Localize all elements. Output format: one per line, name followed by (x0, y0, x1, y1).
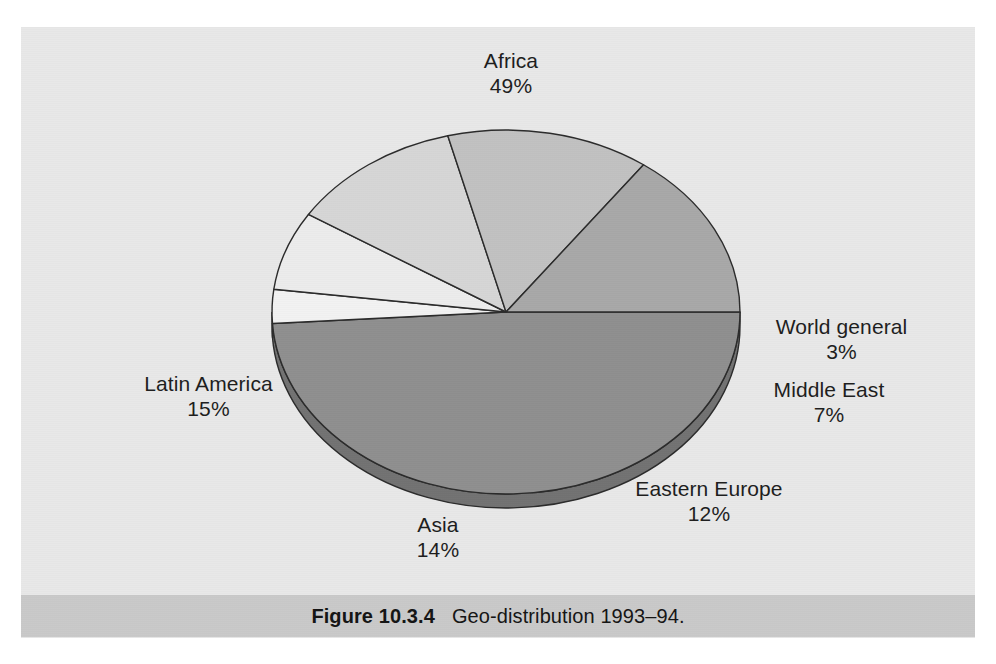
slice-label-world-general-name: World general (776, 315, 908, 338)
slice-label-latin-america-name: Latin America (144, 372, 273, 395)
slice-label-middle-east-pct: 7% (734, 403, 924, 428)
figure-caption-bar: Figure 10.3.4Geo-distribution 1993–94. (21, 595, 975, 637)
pie-chart-svg (21, 27, 975, 595)
slice-label-africa: Africa 49% (421, 49, 601, 99)
slice-label-world-general-pct: 3% (734, 340, 949, 365)
pie-slice-africa (272, 312, 740, 494)
slice-label-world-general: World general 3% (734, 315, 949, 365)
slice-label-eastern-europe-name: Eastern Europe (635, 477, 782, 500)
figure-caption-body: Geo-distribution 1993–94. (452, 605, 685, 627)
figure-root: Africa 49% World general 3% Middle East … (0, 0, 996, 664)
slice-label-latin-america: Latin America 15% (101, 372, 316, 422)
pie-chart: Africa 49% World general 3% Middle East … (21, 27, 975, 595)
slice-label-latin-america-pct: 15% (101, 397, 316, 422)
slice-label-africa-name: Africa (484, 49, 538, 72)
slice-label-middle-east: Middle East 7% (734, 378, 924, 428)
slice-label-asia-name: Asia (417, 513, 458, 536)
figure-panel: Africa 49% World general 3% Middle East … (21, 27, 975, 638)
slice-label-africa-pct: 49% (421, 74, 601, 99)
slice-label-asia-pct: 14% (368, 538, 508, 563)
figure-number: Figure 10.3.4 (311, 605, 435, 627)
slice-label-middle-east-name: Middle East (774, 378, 885, 401)
figure-caption: Figure 10.3.4Geo-distribution 1993–94. (311, 605, 684, 628)
slice-label-asia: Asia 14% (368, 513, 508, 563)
slice-label-eastern-europe: Eastern Europe 12% (600, 477, 818, 527)
slice-label-eastern-europe-pct: 12% (600, 502, 818, 527)
